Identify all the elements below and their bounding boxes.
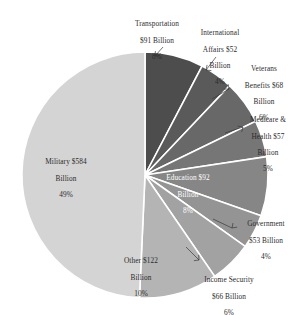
label-international-affairs-line1: International <box>188 29 252 37</box>
label-income-security-line3: 6% <box>190 309 268 315</box>
label-income-security-line1: Income Security <box>190 276 268 284</box>
label-veterans-benefits-line1: Veterans <box>232 65 296 73</box>
label-transportation-line2: $91 Billion <box>118 37 196 45</box>
label-medicare-health-line2: Health $57 <box>238 133 298 141</box>
label-medicare-health-line4: 5% <box>238 165 298 173</box>
pie-chart: Transportation $91 Billion 8% Internatio… <box>0 0 301 315</box>
label-military-line2: Billion <box>30 175 102 183</box>
label-education-line1: Education $92 <box>155 174 221 182</box>
label-other-line3: 10% <box>110 290 172 298</box>
label-military: Military $584 Billion 49% <box>30 150 102 207</box>
label-medicare-health: Medicare & Health $57 Billion 5% <box>238 108 298 182</box>
label-education-line2: Billion <box>155 191 221 199</box>
label-transportation-line3: 8% <box>118 53 196 61</box>
label-government-line2: $53 Billion <box>235 237 297 245</box>
label-transportation-line1: Transportation <box>118 20 196 28</box>
label-government: Government $53 Billion 4% <box>235 212 297 269</box>
label-medicare-health-line1: Medicare & <box>238 116 298 124</box>
label-other-line2: Billion <box>110 274 172 282</box>
label-other: Other $122 Billion 10% <box>110 249 172 306</box>
label-veterans-benefits-line2: Benefits $68 <box>232 82 296 90</box>
label-education-line3: 8% <box>155 207 221 215</box>
label-government-line3: 4% <box>235 253 297 261</box>
label-military-line3: 49% <box>30 191 102 199</box>
label-veterans-benefits-line3: Billion <box>232 98 296 106</box>
label-income-security-line2: $66 Billion <box>190 293 268 301</box>
label-government-line1: Government <box>235 220 297 228</box>
label-income-security: Income Security $66 Billion 6% <box>190 268 268 315</box>
label-medicare-health-line3: Billion <box>238 149 298 157</box>
label-military-line1: Military $584 <box>30 158 102 166</box>
label-other-line1: Other $122 <box>110 257 172 265</box>
label-international-affairs-line2: Affairs $52 <box>188 46 252 54</box>
label-transportation: Transportation $91 Billion 8% <box>118 12 196 69</box>
label-education: Education $92 Billion 8% <box>155 166 221 223</box>
